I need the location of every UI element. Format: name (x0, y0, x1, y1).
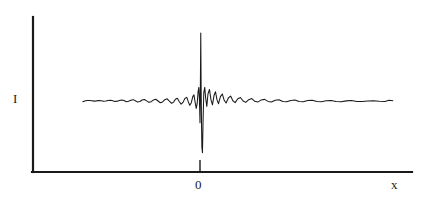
plot-canvas (0, 0, 430, 203)
x-axis-tick-label-zero: 0 (195, 178, 202, 191)
interferogram-figure: I 0 x (0, 0, 430, 203)
x-axis-label: x (391, 178, 398, 191)
y-axis-label: I (13, 92, 17, 105)
signal-trace (83, 33, 393, 153)
